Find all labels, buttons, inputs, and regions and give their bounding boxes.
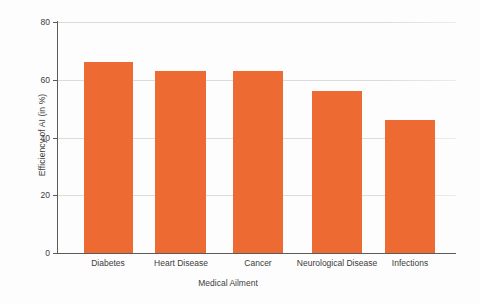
x-tick-label-infections: Infections	[392, 258, 428, 268]
bar-chart: Efficiency of AI (in %) 80 60 40 20 0 Di…	[0, 0, 480, 304]
x-tick-label-diabetes: Diabetes	[91, 258, 125, 268]
y-tick-label-40: 40	[6, 133, 50, 143]
bar-diabetes[interactable]	[84, 62, 133, 253]
bar-infections[interactable]	[385, 120, 435, 253]
y-tick-label-80: 80	[6, 17, 50, 27]
x-axis-title-text: Medical Ailment	[198, 278, 258, 288]
y-tick-label-60: 60	[6, 75, 50, 85]
x-tick-label-neurological-disease: Neurological Disease	[297, 258, 377, 268]
x-tick-label-heart-disease: Heart Disease	[154, 258, 208, 268]
bar-neurological-disease[interactable]	[312, 91, 362, 253]
x-axis-title: Medical Ailment	[0, 278, 480, 288]
gridline-80	[58, 22, 456, 23]
y-tick-label-20: 20	[6, 190, 50, 200]
bar-heart-disease[interactable]	[155, 71, 206, 253]
y-tick-label-group: 80 60 40 20 0	[0, 0, 50, 304]
y-tick-label-0: 0	[6, 248, 50, 258]
plot-area	[58, 22, 456, 253]
x-tick-label-cancer: Cancer	[244, 258, 271, 268]
bar-cancer[interactable]	[233, 71, 283, 253]
